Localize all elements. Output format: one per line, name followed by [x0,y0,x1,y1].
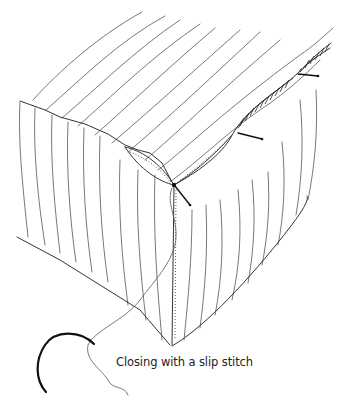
cushion-illustration: Closing with a slip stitch [0,0,343,407]
top-surface-stripes [33,12,333,182]
open-seam-right [174,135,232,185]
figure-caption: Closing with a slip stitch [116,355,253,369]
right-face-stripes [184,90,317,340]
pins [175,74,319,206]
front-top-edge [20,101,172,182]
needle-thread [38,334,94,392]
cushion-drawing [0,0,343,407]
left-face-stripes [19,102,162,340]
